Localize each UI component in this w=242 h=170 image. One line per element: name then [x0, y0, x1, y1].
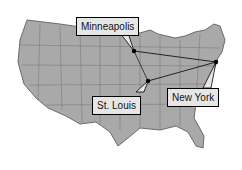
label-minneapolis[interactable]: Minneapolis — [76, 17, 139, 36]
city-dot-newyork[interactable] — [214, 60, 218, 64]
city-dot-stlouis[interactable] — [146, 79, 150, 83]
city-dot-minneapolis[interactable] — [132, 49, 136, 53]
label-newyork[interactable]: New York — [167, 88, 219, 107]
label-stlouis[interactable]: St. Louis — [92, 96, 141, 115]
